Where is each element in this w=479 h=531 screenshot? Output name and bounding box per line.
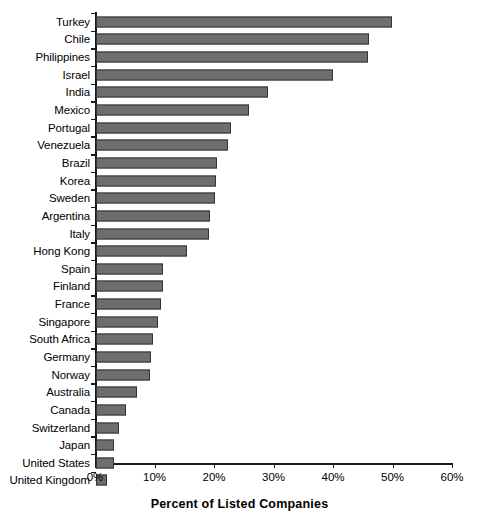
bar-row: South Africa — [0, 331, 479, 349]
y-axis-tick — [91, 366, 96, 367]
bar-row: Switzerland — [0, 419, 479, 437]
bar-container — [96, 246, 187, 257]
bar — [96, 140, 228, 151]
y-axis-tick — [91, 383, 96, 384]
x-axis-ticks: 0%10%20%30%40%50%60% — [0, 463, 479, 493]
x-axis-tick-label: 50% — [381, 470, 404, 484]
category-label: Mexico — [54, 104, 90, 116]
x-axis-tick-label: 60% — [440, 470, 463, 484]
bar-row: Chile — [0, 31, 479, 49]
category-label: Turkey — [56, 16, 90, 28]
category-label: Finland — [53, 280, 90, 292]
bar-container — [96, 228, 209, 239]
bar — [96, 387, 137, 398]
category-label: Germany — [43, 351, 90, 363]
category-label: Switzerland — [32, 422, 90, 434]
bar — [96, 34, 369, 45]
y-axis-tick — [91, 13, 96, 14]
bar-row: Argentina — [0, 207, 479, 225]
bar-container — [96, 404, 126, 415]
x-axis-tick — [452, 463, 453, 468]
bar — [96, 246, 187, 257]
bar — [96, 210, 210, 221]
bar — [96, 422, 119, 433]
y-axis-tick — [91, 278, 96, 279]
category-label: Australia — [46, 386, 90, 398]
bar-container — [96, 263, 163, 274]
bar-row: Brazil — [0, 154, 479, 172]
x-axis-tick-label: 0% — [87, 470, 104, 484]
category-label: Sweden — [49, 192, 90, 204]
y-axis-tick — [91, 154, 96, 155]
bar-container — [96, 157, 217, 168]
bar-container — [96, 69, 333, 80]
y-axis-tick — [91, 101, 96, 102]
bar-row: Germany — [0, 348, 479, 366]
bar-container — [96, 369, 150, 380]
bar-row: Finland — [0, 278, 479, 296]
bar-container — [96, 281, 163, 292]
x-axis-tick-label: 10% — [143, 470, 166, 484]
y-axis-tick — [91, 295, 96, 296]
bar-row: Australia — [0, 383, 479, 401]
bar — [96, 122, 231, 133]
x-axis-tick — [155, 463, 156, 468]
bar — [96, 175, 216, 186]
bar — [96, 193, 215, 204]
y-axis-tick — [91, 419, 96, 420]
x-axis-tick — [333, 463, 334, 468]
category-label: Chile — [64, 33, 90, 45]
category-label: Singapore — [38, 316, 90, 328]
bar-container — [96, 175, 216, 186]
bar-row: Portugal — [0, 119, 479, 137]
y-axis-tick — [91, 331, 96, 332]
x-axis-tick — [214, 463, 215, 468]
bar-row: Israel — [0, 66, 479, 84]
y-axis-tick — [91, 172, 96, 173]
bar-container — [96, 316, 158, 327]
bar-row: Mexico — [0, 101, 479, 119]
bar-container — [96, 140, 228, 151]
bar — [96, 369, 150, 380]
category-label: Venezuela — [37, 139, 90, 151]
y-axis-tick — [91, 436, 96, 437]
bar — [96, 316, 158, 327]
y-axis-tick — [91, 189, 96, 190]
y-axis-tick — [91, 454, 96, 455]
y-axis-tick — [91, 207, 96, 208]
bar-row: Norway — [0, 366, 479, 384]
category-label: Hong Kong — [33, 245, 90, 257]
bar — [96, 334, 153, 345]
bar-container — [96, 16, 392, 27]
bar — [96, 228, 209, 239]
category-label: Canada — [50, 404, 90, 416]
bar-row: Korea — [0, 172, 479, 190]
bar-container — [96, 334, 153, 345]
bar-row: Philippines — [0, 48, 479, 66]
bar-container — [96, 440, 114, 451]
bar-container — [96, 34, 369, 45]
x-axis-tick — [95, 463, 96, 468]
bar — [96, 299, 161, 310]
category-label: Israel — [62, 69, 90, 81]
category-label: India — [66, 86, 90, 98]
y-axis-tick — [91, 66, 96, 67]
bar-row: Spain — [0, 260, 479, 278]
category-label: France — [55, 298, 90, 310]
bar — [96, 351, 151, 362]
x-axis-tick-label: 20% — [202, 470, 225, 484]
category-label: Japan — [59, 439, 90, 451]
bar-container — [96, 105, 249, 116]
bar-row: India — [0, 84, 479, 102]
bar-row: Hong Kong — [0, 242, 479, 260]
bar-container — [96, 52, 368, 63]
y-axis-tick — [91, 48, 96, 49]
bar-container — [96, 87, 268, 98]
bar-row: Japan — [0, 436, 479, 454]
y-axis-tick — [91, 260, 96, 261]
category-label: South Africa — [29, 333, 90, 345]
x-axis-tick-label: 40% — [321, 470, 344, 484]
bar — [96, 440, 114, 451]
y-axis-tick — [91, 348, 96, 349]
y-axis-tick — [91, 225, 96, 226]
